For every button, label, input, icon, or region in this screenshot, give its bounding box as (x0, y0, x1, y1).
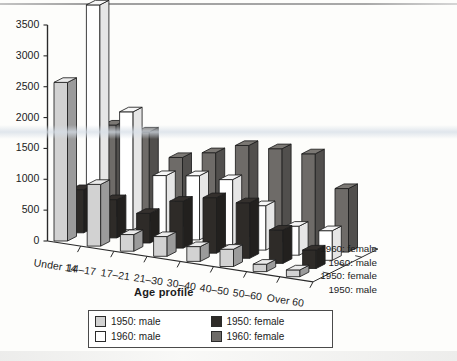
bar-3d[interactable] (54, 78, 77, 241)
bar-3d[interactable] (120, 230, 142, 251)
legend-item-1950-female[interactable]: 1950: female (211, 316, 327, 327)
y-axis-tick-label: 2000 (0, 111, 40, 123)
y-axis-tick-label: 500 (0, 203, 40, 215)
legend-item-1960-female[interactable]: 1960: female (211, 331, 327, 342)
legend-item-1950-male[interactable]: 1950: male (95, 316, 211, 327)
y-axis-tick-label: 3000 (0, 49, 40, 61)
bar-3d[interactable] (187, 242, 210, 261)
depth-axis-label: 1960: male (303, 257, 377, 268)
depth-axis-label: 1950: male (303, 284, 377, 295)
legend-swatch-icon (211, 316, 222, 327)
depth-axis-label: 1950: female (303, 270, 377, 281)
bar-3d[interactable] (154, 232, 177, 256)
bar-3d[interactable] (253, 260, 276, 272)
legend-label: 1950: female (227, 316, 285, 327)
y-axis-tick-label: 1000 (0, 172, 40, 184)
depth-axis-label: 1960: female (303, 243, 377, 254)
bar-3d[interactable] (87, 180, 110, 246)
legend-row-2: 1960: male 1960: female (95, 329, 326, 344)
chart-canvas (0, 0, 457, 361)
y-axis-tick-label: 1500 (0, 141, 40, 153)
legend-label: 1960: female (227, 331, 285, 342)
legend-label: 1960: male (111, 331, 160, 342)
legend-label: 1950: male (111, 316, 160, 327)
legend-swatch-icon (211, 331, 222, 342)
y-axis-tick-label: 2500 (0, 80, 40, 92)
legend-item-1960-male[interactable]: 1960: male (95, 331, 211, 342)
legend-swatch-icon (95, 316, 106, 327)
legend-row-1: 1950: male 1950: female (95, 314, 326, 329)
chart-legend: 1950: male 1950: female 1960: male 1960:… (88, 310, 333, 348)
bar-3d[interactable] (269, 225, 292, 263)
y-axis-tick-label: 3500 (0, 18, 40, 30)
x-axis-title: Age profile (134, 286, 194, 298)
y-axis-tick-label: 0 (0, 234, 40, 246)
bar-3d[interactable] (220, 245, 243, 267)
chart-bars (54, 0, 358, 276)
legend-swatch-icon (95, 331, 106, 342)
bar-chart-3d: 0500100015002000250030003500Under 1414–1… (0, 0, 457, 361)
